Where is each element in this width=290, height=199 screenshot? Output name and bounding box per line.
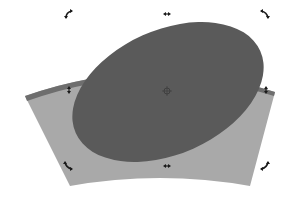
drawing-canvas[interactable] — [0, 0, 290, 199]
